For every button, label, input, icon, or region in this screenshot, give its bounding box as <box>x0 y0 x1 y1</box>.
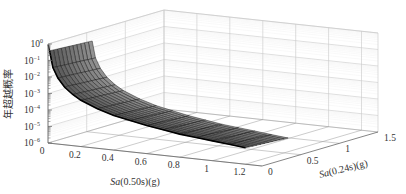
x-tick-label: 0.8 <box>168 160 180 170</box>
z-tick-label: 10−5 <box>24 121 40 132</box>
z-tick-label: 10−1 <box>24 55 40 66</box>
z-tick-label: 10−4 <box>24 104 40 115</box>
x-tick-label: 0.6 <box>135 157 147 167</box>
x-tick-label: 1.2 <box>234 167 246 177</box>
z-tick-label: 10−6 <box>24 137 40 148</box>
y-tick-label: 1 <box>345 144 350 154</box>
x-tick-label: 1 <box>204 164 209 174</box>
y-tick-label: 0.5 <box>307 156 319 166</box>
z-tick-label: 100 <box>31 38 44 49</box>
x-tick-label: 0.2 <box>69 150 81 160</box>
x-axis-title: Sa(0.50s)(g) <box>110 176 160 188</box>
y-axis-title: Sa(0.24s)(g) <box>318 157 369 181</box>
z-axis-title: 年超越概率 <box>2 69 14 119</box>
x-tick-label: 0 <box>40 146 45 156</box>
y-tick-label: 1.5 <box>384 133 396 143</box>
z-tick-label: 10−3 <box>24 88 40 99</box>
surface-chart: 10010−110−210−310−410−510−600.20.40.60.8… <box>0 0 406 194</box>
z-axis-label: 年超越概率 <box>2 69 14 119</box>
y-tick-label: 0 <box>268 167 273 177</box>
surface-mesh <box>48 41 288 148</box>
x-tick-label: 0.4 <box>102 153 114 163</box>
z-tick-label: 10−2 <box>24 71 40 82</box>
